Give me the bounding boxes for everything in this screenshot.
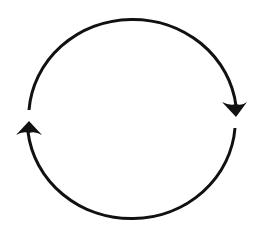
cycle-diagram (0, 0, 262, 231)
bottom-arc (28, 128, 235, 219)
left-arrowhead-icon (16, 121, 42, 135)
top-arc (29, 19, 236, 110)
